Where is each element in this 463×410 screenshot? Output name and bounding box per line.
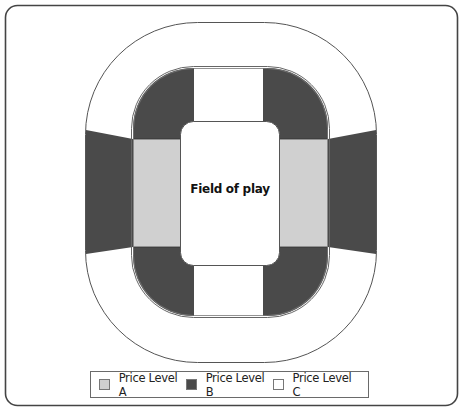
swatch-price-level-c <box>273 379 284 390</box>
legend: Price Level A Price Level B Price Level … <box>90 371 369 398</box>
top-section-price-level-c <box>194 68 263 128</box>
swatch-price-level-b <box>186 379 197 390</box>
legend-label: Price Level A <box>119 371 186 399</box>
left-wing-price-level-b <box>86 130 133 254</box>
field-of-play-label: Field of play <box>180 182 280 196</box>
legend-item-price-level-b: Price Level B <box>186 371 273 399</box>
stadium-seating-map <box>0 0 463 410</box>
right-section-price-level-a <box>280 139 328 247</box>
legend-item-price-level-c: Price Level C <box>273 371 360 399</box>
legend-label: Price Level C <box>293 371 360 399</box>
right-wing-price-level-b <box>328 130 376 254</box>
legend-label: Price Level B <box>206 371 273 399</box>
left-section-price-level-a <box>133 139 180 247</box>
legend-item-price-level-a: Price Level A <box>99 371 186 399</box>
swatch-price-level-a <box>99 379 110 390</box>
bottom-section-price-level-c <box>194 258 263 316</box>
